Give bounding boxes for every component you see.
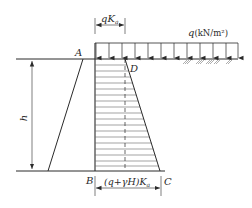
point-a-label: A	[74, 47, 82, 58]
bottom-width-label: (q+γH)Ka	[104, 176, 151, 188]
point-b-label: B	[85, 175, 93, 186]
wall-back-face	[48, 59, 83, 171]
ground-hatch-icon	[183, 60, 232, 64]
top-width-label: qKa	[101, 13, 119, 25]
pressure-edge-dc	[125, 59, 160, 171]
surcharge-arrows	[96, 43, 238, 58]
pressure-hatch	[95, 65, 159, 166]
point-c-label: C	[164, 176, 172, 187]
height-label: h	[18, 115, 29, 121]
earth-pressure-diagram: qKa q(kN/m²) h A D B C (q+γH)Ka	[0, 0, 252, 208]
load-label: q(kN/m²)	[188, 27, 228, 38]
point-d-label: D	[129, 63, 138, 74]
